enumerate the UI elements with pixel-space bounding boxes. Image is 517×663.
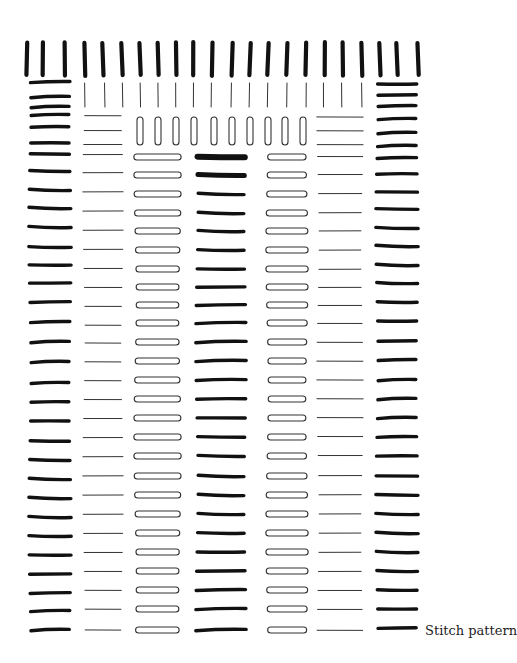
oval-stitch xyxy=(266,266,308,272)
thick-stitch xyxy=(30,593,70,594)
thick-stitch xyxy=(30,459,70,460)
thick-stitch xyxy=(198,475,244,476)
oval-stitch xyxy=(136,339,179,345)
vertical-stitch xyxy=(84,43,85,76)
oval-vertical-stitch xyxy=(211,117,217,145)
column-thin-lines-left xyxy=(83,116,123,630)
oval-stitch xyxy=(266,247,308,253)
thick-stitch xyxy=(376,495,418,496)
oval-vertical-stitches xyxy=(137,117,306,145)
thick-stitch xyxy=(376,209,418,210)
oval-stitch xyxy=(136,627,180,633)
thick-stitch xyxy=(198,455,244,456)
oval-vertical-stitch xyxy=(229,117,235,145)
thick-stitch xyxy=(30,302,70,303)
vertical-stitch xyxy=(158,43,159,75)
thick-stitch xyxy=(378,398,416,399)
oval-stitch xyxy=(134,415,181,421)
oval-vertical-stitch xyxy=(137,117,143,145)
oval-stitch xyxy=(136,302,179,308)
thick-stitch xyxy=(31,382,69,383)
vertical-stitch xyxy=(417,43,418,75)
thick-stitch xyxy=(377,436,417,437)
thick-stitch xyxy=(377,157,416,158)
thick-stitch xyxy=(376,532,418,533)
thick-stitch xyxy=(198,230,244,231)
oval-stitch xyxy=(266,228,308,234)
oval-vertical-stitch xyxy=(155,117,161,145)
thick-stitch xyxy=(198,193,244,194)
thick-stitch xyxy=(198,494,244,495)
thick-stitch xyxy=(31,321,70,322)
vertical-stitch xyxy=(102,43,103,75)
thick-stitch xyxy=(378,360,416,361)
thick-stitch xyxy=(196,322,246,323)
thick-stitch xyxy=(198,437,245,438)
oval-vertical-stitch xyxy=(282,117,288,145)
oval-vertical-stitch xyxy=(265,117,271,145)
thick-stitch xyxy=(31,629,69,630)
oval-stitch xyxy=(136,530,180,536)
oval-stitch xyxy=(266,210,307,216)
thick-stitch xyxy=(30,154,69,155)
oval-stitch xyxy=(136,320,179,326)
thick-stitch xyxy=(196,379,246,380)
thick-stitch xyxy=(31,361,69,362)
thick-stitch xyxy=(378,379,416,380)
thick-stitch xyxy=(31,106,69,107)
oval-stitch xyxy=(266,549,308,555)
oval-stitch xyxy=(135,210,181,216)
oval-stitch xyxy=(134,396,180,402)
oval-stitch xyxy=(134,434,181,440)
oval-stitch xyxy=(268,154,306,160)
oval-stitch xyxy=(268,339,307,345)
thick-stitch xyxy=(29,516,71,517)
thick-stitch xyxy=(198,250,244,251)
thick-stitch xyxy=(376,245,418,246)
thick-stitch xyxy=(378,145,417,146)
oval-stitch xyxy=(134,453,181,459)
oval-stitch xyxy=(134,172,181,178)
thick-stitch xyxy=(377,570,418,571)
oval-stitch xyxy=(266,492,307,498)
oval-stitch xyxy=(268,358,306,364)
oval-stitch xyxy=(267,606,307,612)
thin-vertical-stitches xyxy=(85,83,362,107)
thick-stitch xyxy=(376,551,418,552)
thick-stitch xyxy=(29,226,71,227)
thick-stitch xyxy=(378,132,416,133)
thick-stitch xyxy=(376,264,418,265)
oval-stitch xyxy=(136,284,179,290)
vertical-stitch xyxy=(361,43,362,76)
vertical-stitch xyxy=(286,43,287,75)
thick-stitch xyxy=(378,106,416,107)
column-right-border xyxy=(376,84,418,628)
oval-stitch xyxy=(267,453,306,459)
thick-stitch xyxy=(196,360,246,361)
stitch-columns xyxy=(29,81,418,633)
oval-stitch xyxy=(268,434,307,440)
oval-stitch xyxy=(135,377,180,383)
oval-stitch xyxy=(268,415,306,421)
oval-stitch xyxy=(268,627,307,633)
oval-stitch xyxy=(267,587,308,593)
oval-stitch xyxy=(266,568,308,574)
oval-stitch xyxy=(266,530,308,536)
vertical-stitch xyxy=(232,43,233,76)
vertical-stitch xyxy=(139,43,140,75)
vertical-stitch xyxy=(26,43,27,75)
thick-stitch xyxy=(196,590,245,591)
oval-stitch xyxy=(135,358,179,364)
thick-stitch xyxy=(378,417,417,418)
thick-stitch xyxy=(378,341,416,342)
oval-stitch xyxy=(266,284,308,290)
oval-vertical-stitch xyxy=(191,117,197,145)
vertical-stitch xyxy=(212,43,213,76)
thick-stitch xyxy=(31,610,70,611)
vertical-stitch xyxy=(379,43,380,75)
thick-stitch xyxy=(29,207,71,208)
thick-stitch xyxy=(196,305,245,306)
oval-vertical-stitch xyxy=(173,117,179,145)
thick-stitch xyxy=(378,118,416,119)
